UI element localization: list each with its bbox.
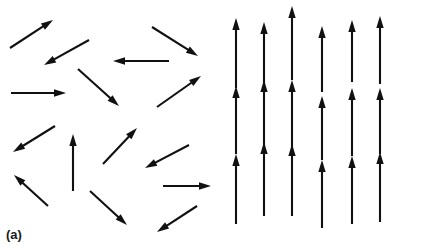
spin-arrow-b-r0-c4 <box>348 20 355 82</box>
spin-arrow-a-10 <box>145 145 189 168</box>
spin-arrow-a-12 <box>163 182 211 189</box>
spin-arrow-a-0 <box>10 20 53 48</box>
arrow-head <box>189 76 201 86</box>
arrow-head <box>288 144 295 156</box>
panel-a-arrow-canvas <box>0 0 212 251</box>
arrow-shaft <box>21 182 48 206</box>
arrow-head <box>44 56 56 65</box>
arrow-head <box>376 88 383 100</box>
arrow-shaft <box>165 206 197 227</box>
panel-a-label: (a) <box>6 228 22 241</box>
spin-arrow-b-r0-c2 <box>288 6 295 80</box>
spin-arrow-b-r1-c5 <box>376 88 383 154</box>
spin-arrow-b-r2-c4 <box>348 156 355 224</box>
arrow-shaft <box>103 135 130 164</box>
spin-arrow-a-2 <box>152 27 198 56</box>
arrow-head <box>186 46 198 56</box>
spin-arrow-a-11 <box>14 175 48 206</box>
spin-arrow-b-r1-c1 <box>260 80 267 152</box>
spin-arrow-a-1 <box>44 40 89 65</box>
arrow-shaft <box>78 69 112 99</box>
spin-arrow-b-r1-c0 <box>232 86 239 154</box>
arrow-head <box>318 26 325 38</box>
arrow-head <box>318 160 325 172</box>
spin-arrow-b-r0-c1 <box>260 22 267 90</box>
panel-a-disordered: (a) <box>0 0 212 251</box>
arrow-head <box>260 80 267 92</box>
spin-arrow-a-8 <box>69 134 76 191</box>
spin-alignment-figure: (a) (b) <box>0 0 424 251</box>
spin-arrow-b-r2-c0 <box>232 154 239 224</box>
spin-arrow-b-r1-c3 <box>318 96 325 160</box>
spin-arrow-b-r0-c3 <box>318 26 325 92</box>
spin-arrow-a-13 <box>90 191 127 225</box>
arrow-shaft <box>154 145 189 163</box>
arrow-head <box>199 182 211 189</box>
arrow-head <box>232 86 239 98</box>
arrow-head <box>348 156 355 168</box>
arrow-head <box>348 20 355 32</box>
arrow-head <box>288 80 295 92</box>
spin-arrow-b-r1-c2 <box>288 80 295 150</box>
arrow-shaft <box>53 40 89 60</box>
spin-arrow-b-r2-c1 <box>260 142 267 216</box>
arrow-head <box>318 96 325 108</box>
spin-arrow-b-r2-c3 <box>318 160 325 228</box>
arrow-head <box>113 57 125 64</box>
spin-arrow-a-3 <box>113 57 169 64</box>
spin-arrow-a-5 <box>78 69 119 106</box>
arrow-shaft <box>90 191 120 218</box>
spin-arrow-b-r2-c5 <box>376 152 383 222</box>
arrow-head <box>13 143 25 152</box>
arrow-head <box>69 134 76 146</box>
arrow-head <box>260 142 267 154</box>
spin-arrow-b-r0-c5 <box>376 16 383 84</box>
panel-b-arrow-canvas <box>212 0 424 251</box>
spin-arrow-a-6 <box>157 76 201 107</box>
arrow-shaft <box>157 82 193 107</box>
arrow-head <box>54 89 66 96</box>
arrow-head <box>288 6 295 18</box>
spin-arrow-a-14 <box>157 206 197 232</box>
arrow-head <box>41 20 53 30</box>
arrow-head <box>157 222 169 232</box>
arrow-head <box>232 154 239 166</box>
spin-arrow-a-7 <box>13 126 55 152</box>
panel-b-ordered: (b) <box>212 0 424 251</box>
spin-arrow-a-9 <box>103 128 137 164</box>
spin-arrow-b-r0-c0 <box>232 18 239 88</box>
spin-arrow-b-r1-c4 <box>348 88 355 156</box>
arrow-shaft <box>22 126 55 147</box>
arrow-head <box>376 152 383 164</box>
arrow-head <box>376 16 383 28</box>
arrow-head <box>145 159 157 168</box>
arrow-shaft <box>152 27 190 51</box>
spin-arrow-b-r2-c2 <box>288 144 295 216</box>
arrow-head <box>348 88 355 100</box>
arrow-head <box>232 18 239 30</box>
arrow-shaft <box>10 25 45 48</box>
arrow-head <box>260 22 267 34</box>
spin-arrow-a-4 <box>11 89 66 96</box>
